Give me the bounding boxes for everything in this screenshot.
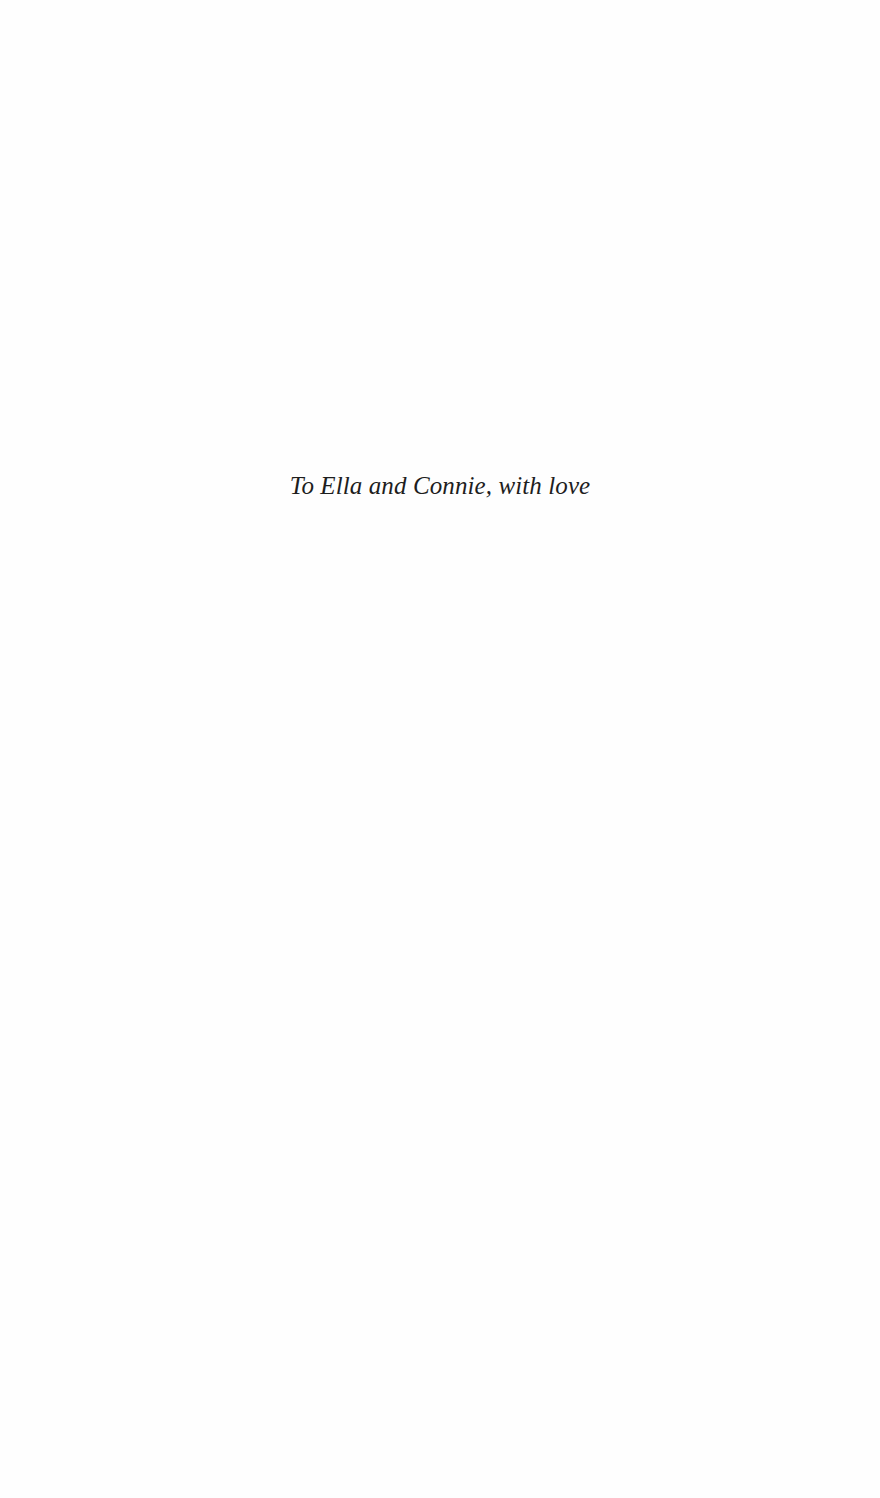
dedication-text: To Ella and Connie, with love xyxy=(0,472,880,500)
book-page: To Ella and Connie, with love xyxy=(0,0,880,1498)
